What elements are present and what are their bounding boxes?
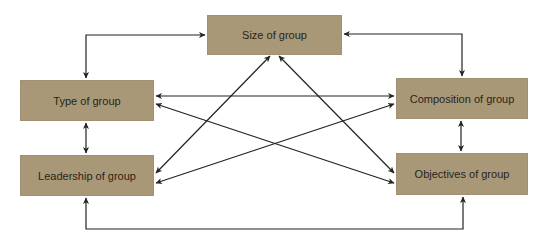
arrow-size-objectives — [279, 56, 394, 173]
node-type-of-group: Type of group — [20, 80, 154, 121]
node-objectives-of-group: Objectives of group — [396, 153, 528, 195]
node-label: Size of group — [242, 29, 307, 41]
arrow-leadership-size — [156, 56, 270, 173]
node-size-of-group: Size of group — [207, 15, 342, 55]
node-label: Type of group — [53, 95, 120, 107]
arrow-size-type — [86, 35, 205, 78]
arrow-size-composition — [344, 34, 462, 76]
node-leadership-of-group: Leadership of group — [20, 155, 154, 196]
node-label: Composition of group — [410, 93, 515, 105]
node-label: Leadership of group — [38, 170, 136, 182]
arrow-leadership-objectives — [86, 197, 463, 229]
node-composition-of-group: Composition of group — [396, 78, 528, 119]
node-label: Objectives of group — [415, 168, 510, 180]
group-factors-diagram: Size of group Type of group Composition … — [0, 0, 546, 239]
